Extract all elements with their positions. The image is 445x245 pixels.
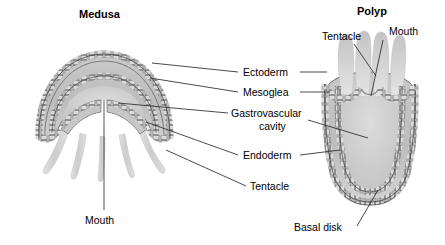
label-basal-disk: Basal disk — [294, 221, 343, 233]
label-tentacle-polyp: Tentacle — [322, 30, 361, 42]
medusa-tentacle — [119, 134, 134, 178]
label-ectoderm: Ectoderm — [243, 66, 288, 78]
label-mesoglea: Mesoglea — [243, 86, 289, 98]
polyp-figure — [325, 31, 415, 205]
diagram-canvas: Medusa Polyp — [0, 0, 445, 245]
label-mouth-medusa: Mouth — [85, 214, 114, 226]
heading-polyp: Polyp — [357, 5, 387, 17]
label-gastrovascular: Gastrovascular — [231, 107, 302, 119]
polyp-tentacle — [373, 32, 389, 97]
leader-ectoderm-medusa — [152, 63, 238, 72]
label-cavity: cavity — [259, 120, 287, 132]
label-tentacle-medusa: Tentacle — [250, 180, 289, 192]
leader-tentacle-medusa — [166, 150, 246, 186]
label-endoderm: Endoderm — [243, 149, 292, 161]
label-mouth-polyp: Mouth — [389, 25, 418, 37]
heading-medusa: Medusa — [79, 8, 121, 20]
medusa-figure — [39, 54, 170, 182]
cnidaria-body-forms-diagram: Medusa Polyp — [0, 0, 445, 245]
medusa-tentacle — [71, 133, 86, 179]
